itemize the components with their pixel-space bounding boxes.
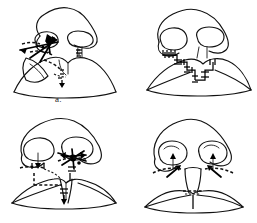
figure-panel-d: d.	[129, 111, 257, 222]
transverse-incision-dashed-c	[34, 169, 62, 185]
columella-base-d	[185, 168, 201, 194]
left-nostril-c	[24, 138, 54, 161]
figure-panel-a: a.	[0, 0, 128, 111]
left-nostril-b	[160, 28, 187, 50]
figure-root: a.	[0, 0, 257, 223]
panel-label-a: a.	[55, 94, 62, 104]
upper-lip-outline-b	[147, 59, 251, 96]
upper-lip-outline-a	[14, 57, 116, 98]
right-nostril-a	[68, 31, 94, 47]
suture-tick-group-b	[165, 52, 215, 82]
figure-panel-b: b.	[129, 0, 257, 111]
lip-suture-tick-c	[60, 189, 68, 205]
alar-base-dashed-d	[153, 168, 233, 173]
tissue-flap-a	[23, 58, 48, 82]
columella-b	[197, 47, 207, 58]
figure-panel-c: c.	[0, 111, 128, 222]
right-cleft-cluster-c	[58, 149, 86, 181]
right-nostril-b	[197, 27, 224, 47]
